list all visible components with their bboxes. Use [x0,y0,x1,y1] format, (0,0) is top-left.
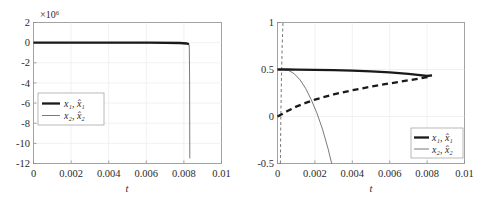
left-y-ticklabel-neg10: -10 [16,138,30,149]
left-y-ticklabel-neg2: -2 [21,57,30,68]
right-chart-svg: 1 0.5 0 -0.5 0 0.002 0.004 0.006 0.008 0… [243,0,486,203]
right-y-ticklabel-neg0p5: -0.5 [257,158,274,169]
right-x-ticklabel-5: 0.01 [455,168,473,179]
left-legend[interactable]: x₁, x̂₁ x₂, x̂₂ [38,93,104,125]
right-y-ticklabel-1: 1 [269,17,274,28]
right-y-ticklabel-0: 0 [269,111,274,122]
left-legend-label-x1: x₁, x̂₁ [63,98,85,109]
left-y-ticklabel-2: 2 [25,17,30,28]
left-y-ticklabel-neg6: -6 [21,98,30,109]
left-x-ticklabel-5: 0.01 [212,168,230,179]
right-legend-label-x2: x₂, x̂₂ [431,144,453,155]
left-x-ticklabel-4: 0.008 [172,168,196,179]
left-legend-label-x2: x₂, x̂₂ [63,110,85,121]
left-chart-svg: ×10⁶ 2 0 -2 -4 -6 -8 -10 -12 0 0.002 0.0… [0,0,243,203]
left-x-ticklabel-3: 0.006 [134,168,158,179]
right-y-ticklabel-0p5: 0.5 [261,64,274,75]
right-x-ticklabel-0: 0 [275,168,280,179]
right-legend-label-x1: x₁, x̂₁ [431,132,453,143]
left-x-axis-title: t [126,183,130,194]
left-x-ticklabel-0: 0 [31,168,36,179]
left-y-ticklabel-neg8: -8 [21,118,30,129]
right-x-ticklabel-2: 0.004 [340,168,364,179]
right-x-axis-title: t [370,183,374,194]
left-x-ticklabel-2: 0.004 [97,168,121,179]
chart-panel-left: ×10⁶ 2 0 -2 -4 -6 -8 -10 -12 0 0.002 0.0… [0,0,243,203]
right-legend[interactable]: x₁, x̂₁ x₂, x̂₂ [411,128,463,158]
left-x-ticklabel-1: 0.002 [59,168,83,179]
right-x-ticklabel-1: 0.002 [303,168,327,179]
chart-panel-right: 1 0.5 0 -0.5 0 0.002 0.004 0.006 0.008 0… [243,0,486,203]
left-axis-exponent-label: ×10⁶ [40,9,60,20]
left-y-ticklabel-0: 0 [25,37,30,48]
left-y-ticklabel-neg12: -12 [16,158,30,169]
right-x-ticklabel-4: 0.008 [415,168,439,179]
figure-container: ×10⁶ 2 0 -2 -4 -6 -8 -10 -12 0 0.002 0.0… [0,0,486,203]
left-y-ticklabel-neg4: -4 [21,78,30,89]
right-x-ticklabel-3: 0.006 [378,168,402,179]
